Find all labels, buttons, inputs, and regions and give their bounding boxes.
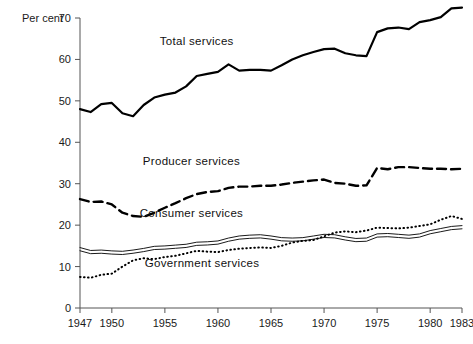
x-tick-label: 1947	[68, 317, 92, 329]
series-producer-services	[80, 167, 462, 217]
x-axis-ticks: 194719501955196019651970197519801983	[68, 308, 473, 329]
y-tick-label: 0	[65, 302, 71, 314]
series-line	[80, 229, 462, 255]
series-consumer-services	[80, 226, 462, 255]
y-tick-label: 60	[59, 53, 71, 65]
y-tick-label: 10	[59, 261, 71, 273]
x-tick-label: 1975	[365, 317, 389, 329]
x-tick-label: 1955	[153, 317, 177, 329]
y-axis-title: Per cent	[22, 12, 63, 24]
x-tick-label: 1950	[100, 317, 124, 329]
x-tick-label: 1980	[418, 317, 442, 329]
x-tick-label: 1960	[206, 317, 230, 329]
chart-series-group	[80, 8, 462, 278]
series-line	[80, 216, 462, 278]
series-label-government-services: Government services	[145, 257, 259, 269]
x-tick-label: 1965	[259, 317, 283, 329]
series-label-producer-services: Producer services	[143, 155, 240, 167]
y-tick-label: 20	[59, 219, 71, 231]
series-line	[80, 167, 462, 217]
y-tick-label: 40	[59, 136, 71, 148]
series-label-consumer-services: Consumer services	[140, 207, 244, 219]
chart-axes	[80, 18, 462, 308]
y-tick-label: 30	[59, 178, 71, 190]
series-total-services	[80, 8, 462, 117]
series-label-total-services: Total services	[160, 35, 234, 47]
y-tick-label: 50	[59, 95, 71, 107]
chart-page: 010203040506070 194719501955196019651970…	[0, 0, 473, 344]
x-tick-label: 1983	[450, 317, 473, 329]
series-line	[80, 8, 462, 117]
x-tick-label: 1970	[312, 317, 336, 329]
series-government-services	[80, 216, 462, 278]
y-axis-ticks: 010203040506070	[59, 12, 80, 314]
services-employment-line-chart: 010203040506070 194719501955196019651970…	[0, 0, 473, 344]
